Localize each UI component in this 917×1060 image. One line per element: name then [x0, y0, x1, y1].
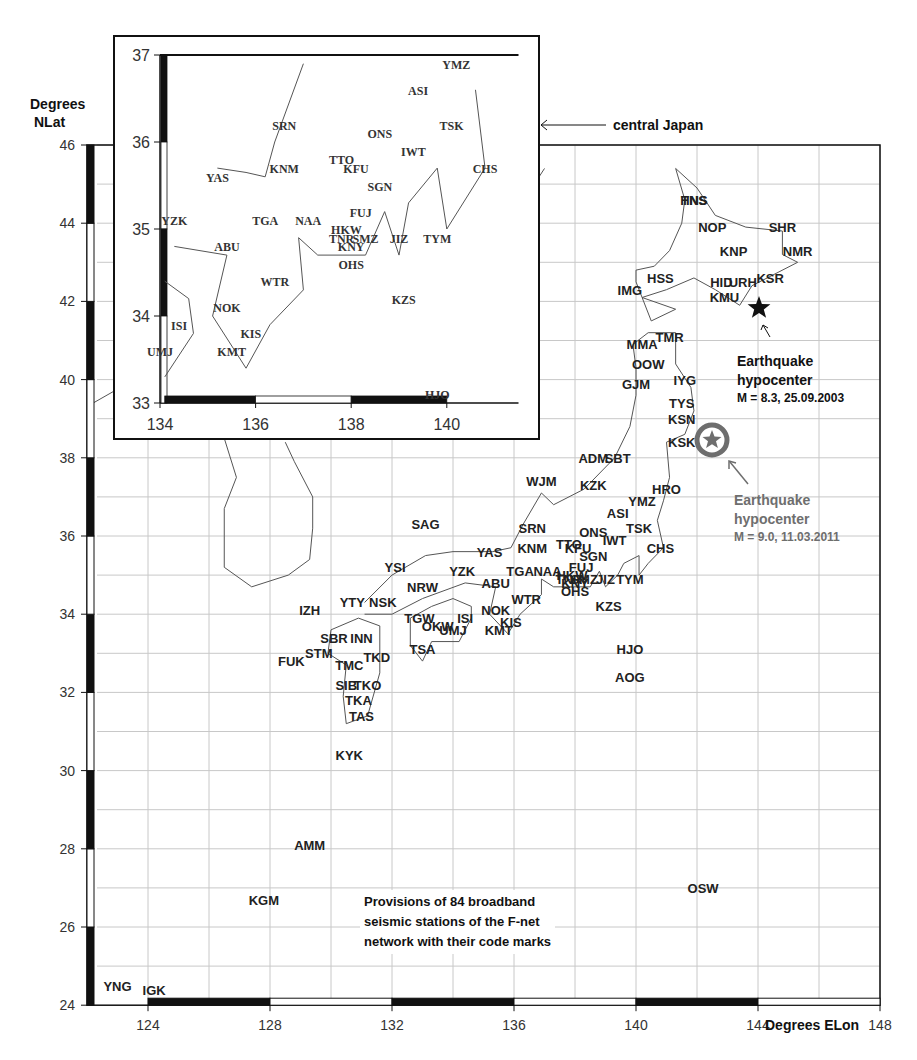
station-label-knm: KNM: [517, 541, 547, 556]
eq2003-detail: M = 8.3, 25.09.2003: [737, 390, 844, 406]
station-label-shr: SHR: [769, 220, 797, 235]
station-label-yng: YNG: [103, 979, 131, 994]
inset-station-label-kny: KNY: [338, 240, 365, 254]
inset-station-label-tym: TYM: [423, 232, 451, 246]
inset-x-tick-label: 138: [338, 416, 365, 433]
inset-map: 3334353637134136138140UMJISINOKKMTKISWTR…: [115, 37, 538, 438]
station-label-kzs: KZS: [596, 599, 622, 614]
note-line-3: network with their code marks: [364, 932, 551, 952]
lat-scale-segment: [87, 536, 94, 614]
inset-lon-scale-segment: [256, 396, 352, 403]
inset-station-label-isi: ISI: [171, 319, 187, 333]
x-tick-label: 128: [258, 1017, 282, 1033]
station-label-kgm: KGM: [249, 893, 279, 908]
eq2003-title-2: hypocenter: [737, 371, 844, 390]
star-icon-eq2011: [703, 430, 722, 448]
x-tick-label: 124: [136, 1017, 160, 1033]
eq2011-title-2: hypocenter: [734, 510, 840, 529]
lat-scale-segment: [87, 145, 94, 223]
inset-station-label-tsk: TSK: [440, 119, 465, 133]
station-label-wtr: WTR: [511, 592, 541, 607]
eq2011-arrow: [730, 462, 748, 484]
station-label-kmu: KMU: [710, 290, 740, 305]
inset-station-label-umj: UMJ: [147, 345, 173, 359]
station-label-asi: ASI: [607, 506, 629, 521]
station-label-tys: TYS: [669, 396, 695, 411]
station-label-izh: IZH: [299, 603, 320, 618]
y-tick-label: 40: [59, 372, 75, 388]
station-label-isi: ISI: [457, 611, 473, 626]
lat-scale-segment: [87, 380, 94, 458]
inset-station-label-fuj: FUJ: [350, 206, 372, 220]
station-label-ysi: YSI: [385, 560, 406, 575]
inset-lat-scale-segment: [161, 229, 167, 316]
inset-station-label-knm: KNM: [270, 162, 299, 176]
station-label-tsa: TSA: [410, 642, 437, 657]
x-tick-label: 132: [380, 1017, 404, 1033]
station-label-urh: URH: [729, 275, 757, 290]
inset-station-label-tga: TGA: [252, 214, 278, 228]
station-label-gjm: GJM: [622, 377, 650, 392]
lon-scale-segment: [392, 998, 514, 1005]
station-label-ksk: KSK: [668, 435, 696, 450]
lon-scale-segment: [270, 998, 392, 1005]
y-axis-title-line1: Degrees: [30, 95, 85, 113]
station-label-tns: TNS: [681, 193, 707, 208]
eq2003-label: Earthquake hypocenter M = 8.3, 25.09.200…: [737, 352, 844, 406]
eq2011-label: Earthquake hypocenter M = 9.0, 11.03.201…: [734, 491, 840, 545]
station-label-fuk: FUK: [278, 654, 305, 669]
inset-station-label-wtr: WTR: [260, 275, 289, 289]
station-label-osw: OSW: [688, 881, 720, 896]
inset-lat-scale-segment: [161, 55, 167, 142]
station-label-yty: YTY: [340, 595, 366, 610]
inset-lat-scale-segment: [161, 316, 167, 403]
station-label-tmc: TMC: [335, 658, 364, 673]
station-label-tka: TKA: [345, 693, 372, 708]
lat-scale-segment: [87, 301, 94, 379]
inset-pointer-arrow: [538, 118, 608, 132]
station-label-sbr: SBR: [320, 631, 348, 646]
inset-station-label-sgn: SGN: [368, 180, 393, 194]
inset-station-label-abu: ABU: [214, 240, 240, 254]
station-label-jiz: JIZ: [596, 572, 615, 587]
lat-scale-segment: [87, 927, 94, 1005]
eq2011-detail: M = 9.0, 11.03.2011: [734, 529, 840, 545]
inset-station-label-yzk: YZK: [161, 214, 188, 228]
station-label-hjo: HJO: [617, 642, 644, 657]
inset-station-label-hjo: HJO: [425, 388, 450, 402]
station-label-img: IMG: [618, 283, 643, 298]
inset-content: 3334353637134136138140UMJISINOKKMTKISWTR…: [132, 47, 518, 433]
station-label-kyk: KYK: [336, 748, 364, 763]
inset-station-label-yas: YAS: [206, 171, 229, 185]
station-label-sbt: SBT: [605, 451, 631, 466]
inset-y-tick-label: 34: [132, 308, 150, 325]
x-tick-label: 136: [502, 1017, 526, 1033]
station-label-kis: KIS: [500, 615, 522, 630]
y-tick-label: 26: [59, 919, 75, 935]
lon-scale-segment: [758, 998, 880, 1005]
inset-x-tick-label: 136: [242, 416, 269, 433]
station-label-tas: TAS: [349, 709, 374, 724]
station-label-hss: HSS: [647, 271, 674, 286]
station-label-mma: MMA: [627, 337, 659, 352]
y-tick-label: 38: [59, 450, 75, 466]
inset-station-label-naa: NAA: [295, 214, 321, 228]
station-label-aog: AOG: [615, 670, 645, 685]
inset-station-label-ons: ONS: [368, 127, 393, 141]
inset-panel: 3334353637134136138140UMJISINOKKMTKISWTR…: [113, 35, 540, 440]
lat-scale-segment: [87, 614, 94, 692]
station-label-nrw: NRW: [407, 580, 439, 595]
station-label-kzk: KZK: [580, 478, 607, 493]
eq2003-title-1: Earthquake: [737, 352, 844, 371]
eq2011-title-1: Earthquake: [734, 491, 840, 510]
lat-scale-segment: [87, 771, 94, 849]
inset-coast-segment: [174, 90, 485, 368]
note-line-2: seismic stations of the F-net: [364, 912, 551, 932]
station-label-tga: TGA: [506, 564, 534, 579]
station-label-tko: TKO: [354, 678, 381, 693]
station-label-hro: HRO: [652, 482, 681, 497]
inset-station-label-srn: SRN: [272, 119, 296, 133]
inset-y-tick-label: 36: [132, 134, 150, 151]
lat-scale-segment: [87, 223, 94, 301]
inset-x-tick-label: 134: [147, 416, 174, 433]
